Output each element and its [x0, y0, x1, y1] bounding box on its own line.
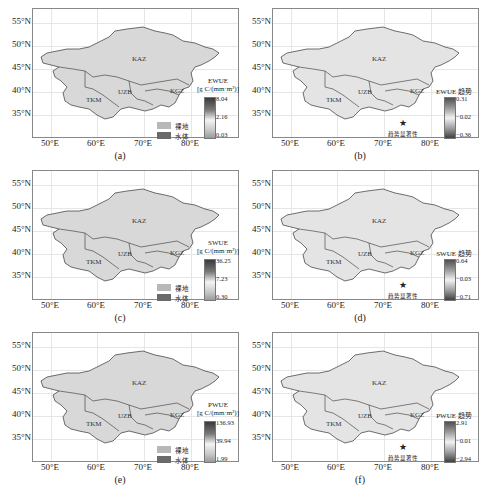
region-outline: [41, 27, 219, 119]
panel-caption: (d): [240, 312, 479, 323]
x-tick-label: 70°E: [128, 300, 158, 310]
country-label-uzb: UZB: [358, 250, 372, 258]
x-tick-label: 60°E: [321, 300, 351, 310]
country-label-tkm: TKM: [86, 96, 102, 104]
y-tick-label: 40°N: [3, 247, 31, 257]
color-bar-tick: 36.25: [216, 257, 231, 264]
color-bar-tick: 2.91: [456, 419, 467, 426]
country-label-kgz: KGZ: [170, 249, 184, 257]
x-tick-label: 50°E: [275, 300, 305, 310]
country-label-uzb: UZB: [118, 88, 132, 96]
region-outline: [281, 351, 459, 443]
y-tick-label: 45°N: [3, 62, 31, 72]
country-label-kaz: KAZ: [372, 55, 386, 63]
bare-land-label: 裸地: [175, 121, 189, 131]
x-tick-label: 70°E: [368, 462, 398, 472]
y-tick-label: 55°N: [3, 16, 31, 26]
water-body-swatch: [157, 294, 171, 301]
star-icon: ★: [388, 280, 418, 290]
y-tick-label: 35°N: [3, 270, 31, 280]
significance-label: 趋势显著性: [383, 454, 423, 462]
color-bar-tick: −0.71: [456, 293, 471, 300]
country-label-uzb: UZB: [118, 412, 132, 420]
water-body-label: 水体: [175, 131, 189, 141]
x-tick-label: 60°E: [321, 462, 351, 472]
water-body-label: 水体: [175, 293, 189, 303]
water-body-swatch: [157, 456, 171, 463]
x-tick-label: 60°E: [321, 138, 351, 148]
y-tick-label: 45°N: [243, 224, 271, 234]
bare-land-label: 裸地: [175, 445, 189, 455]
country-label-kgz: KGZ: [170, 411, 184, 419]
color-bar-tick: 2.16: [216, 113, 227, 120]
x-tick-label: 60°E: [81, 300, 111, 310]
y-tick-label: 35°N: [3, 432, 31, 442]
color-bar: [204, 97, 216, 139]
x-tick-label: 70°E: [368, 138, 398, 148]
water-body-label: 水体: [175, 455, 189, 465]
legend-title: PWUE 趋势: [430, 412, 478, 420]
color-bar-tick: −0.36: [456, 131, 471, 138]
country-label-uzb: UZB: [358, 412, 372, 420]
y-tick-label: 50°N: [243, 363, 271, 373]
panel-caption: (c): [0, 312, 240, 323]
y-tick-label: 55°N: [243, 178, 271, 188]
y-tick-label: 35°N: [243, 108, 271, 118]
country-label-tkm: TKM: [86, 258, 102, 266]
map-panel-f: 55°N50°N45°N40°N35°N50°E60°E70°E80°E(f)K…: [240, 324, 479, 484]
color-bar-tick: 1.99: [216, 455, 227, 462]
x-tick-label: 70°E: [128, 462, 158, 472]
map-panel-a: 55°N50°N45°N40°N35°N50°E60°E70°E80°E(a)K…: [0, 0, 240, 160]
color-bar-tick: 0.03: [216, 131, 227, 138]
y-tick-label: 40°N: [243, 247, 271, 257]
region-outline: [41, 189, 219, 281]
y-tick-label: 40°N: [3, 409, 31, 419]
country-label-kaz: KAZ: [132, 55, 146, 63]
y-tick-label: 45°N: [243, 386, 271, 396]
y-tick-label: 55°N: [3, 178, 31, 188]
color-bar: [204, 259, 216, 301]
panel-caption: (a): [0, 150, 240, 161]
country-label-kaz: KAZ: [372, 217, 386, 225]
country-label-uzb: UZB: [358, 88, 372, 96]
country-label-kaz: KAZ: [372, 379, 386, 387]
panel-caption: (e): [0, 474, 240, 485]
star-icon: ★: [388, 118, 418, 128]
color-bar-tick: −0.01: [456, 437, 471, 444]
x-tick-label: 50°E: [35, 138, 65, 148]
legend-title: SWUE 趋势: [430, 250, 478, 258]
y-tick-label: 45°N: [3, 386, 31, 396]
legend-title: EWUE 趋势: [430, 88, 478, 96]
map-panel-c: 55°N50°N45°N40°N35°N50°E60°E70°E80°E(c)K…: [0, 162, 240, 322]
y-tick-label: 35°N: [243, 270, 271, 280]
y-tick-label: 40°N: [243, 409, 271, 419]
bare-land-swatch: [157, 446, 171, 453]
legend-title: EWUE[g C/(mm·m²)]: [196, 77, 240, 93]
bare-land-label: 裸地: [175, 283, 189, 293]
color-bar-tick: 0.31: [456, 95, 467, 102]
country-label-kgz: KGZ: [410, 249, 424, 257]
color-bar-tick: −0.02: [456, 113, 471, 120]
y-tick-label: 50°N: [3, 201, 31, 211]
x-tick-label: 60°E: [81, 138, 111, 148]
region-outline: [41, 351, 219, 443]
color-bar-tick: −0.03: [456, 275, 471, 282]
color-bar-tick: 8.04: [216, 95, 227, 102]
color-bar: [444, 421, 456, 463]
significance-label: 趋势显著性: [383, 292, 423, 300]
color-bar-tick: 7.23: [216, 275, 227, 282]
country-label-tkm: TKM: [86, 420, 102, 428]
x-tick-label: 60°E: [81, 462, 111, 472]
country-label-kgz: KGZ: [410, 87, 424, 95]
y-tick-label: 45°N: [243, 62, 271, 72]
y-tick-label: 35°N: [243, 432, 271, 442]
country-label-kaz: KAZ: [132, 379, 146, 387]
significance-label: 趋势显著性: [383, 130, 423, 138]
x-tick-label: 80°E: [415, 462, 445, 472]
color-bar-tick: 0.30: [216, 293, 227, 300]
legend-title: PWUE[g C/(mm·m²)]: [196, 401, 240, 417]
country-label-kaz: KAZ: [132, 217, 146, 225]
color-bar-tick: 39.94: [216, 437, 231, 444]
legend-title: SWUE[g C/(mm·m²)]: [196, 239, 240, 255]
y-tick-label: 40°N: [243, 85, 271, 95]
